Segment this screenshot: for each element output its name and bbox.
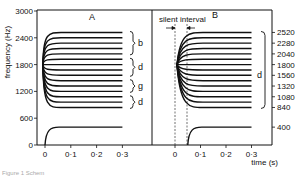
panel-b-formants <box>177 32 252 145</box>
x-tick-label: 0·1 <box>65 150 77 159</box>
bracket-label: b <box>138 38 143 48</box>
y-tick-label: 600 <box>20 114 34 123</box>
f2-formant-line <box>177 49 252 65</box>
f2-formant-line <box>177 65 252 92</box>
bracket <box>130 80 135 93</box>
f1-formant-line <box>188 127 252 145</box>
right-tick-label: 1560 <box>277 71 295 80</box>
x-tick-label: 0 <box>173 150 178 159</box>
right-tick-label: 1800 <box>277 61 295 70</box>
f2-formant-line <box>177 38 252 65</box>
right-tick-label: 2280 <box>277 39 295 48</box>
right-tick-label: 400 <box>277 123 291 132</box>
f2-formant-line <box>43 65 122 70</box>
x-tick-label: 0·1 <box>195 150 207 159</box>
panel-a-label: A <box>89 12 95 22</box>
y-tick-label: 1200 <box>15 87 33 96</box>
f2-formant-line <box>177 65 252 81</box>
panel-b-label: B <box>212 10 218 20</box>
y-tick-label: 0 <box>29 141 34 150</box>
right-tick-label: 1320 <box>277 82 295 91</box>
x-tick-label: 0·2 <box>220 150 232 159</box>
brackets-panel-b: d <box>257 31 265 108</box>
y-axis-title: frequency (Hz) <box>3 25 12 78</box>
f2-formant-line <box>43 38 122 65</box>
silent-interval-label: silent interval <box>159 15 206 24</box>
bracket-label: d <box>138 62 143 72</box>
y-tick-label: 1800 <box>15 61 33 70</box>
f2-formant-line <box>43 65 122 81</box>
f2-formant-line <box>43 65 122 92</box>
silent-interval-arrows <box>166 27 195 30</box>
f2-formant-line <box>177 59 252 64</box>
bracket-label: d <box>138 97 143 107</box>
formant-transition-figure: 06001200180024003000 frequency (Hz) A B … <box>0 0 297 180</box>
x-axis-title: time (s) <box>251 158 278 167</box>
bracket-label: g <box>138 81 143 91</box>
right-tick-label: 840 <box>277 103 291 112</box>
bracket-label: d <box>257 70 262 80</box>
bracket <box>130 96 135 109</box>
brackets-panel-a: bdgd <box>130 31 143 108</box>
y-axis: 06001200180024003000 <box>15 7 37 150</box>
right-tick-label: 1080 <box>277 93 295 102</box>
x-tick-label: 0·2 <box>91 150 103 159</box>
right-tick-label: 2040 <box>277 50 295 59</box>
right-axis-labels: 2520228020401800156013201080840400 <box>272 28 295 132</box>
f2-formant-line <box>43 59 122 64</box>
x-tick-label: 0·3 <box>117 150 129 159</box>
y-tick-label: 3000 <box>15 7 33 16</box>
bracket <box>130 58 135 76</box>
f2-formant-line <box>43 49 122 65</box>
x-axis-a: 00·10·20·3 <box>43 145 129 159</box>
y-tick-label: 2400 <box>15 34 33 43</box>
x-tick-label: 0 <box>43 150 48 159</box>
figure-caption: Figure 1 Schem <box>2 170 44 176</box>
plot-frame <box>37 10 272 145</box>
f2-formant-line <box>177 65 252 70</box>
x-axis-b: 00·10·20·3 <box>173 145 258 159</box>
panel-a-formants <box>43 32 122 145</box>
bracket <box>130 31 135 54</box>
f1-formant-line <box>45 127 122 145</box>
right-tick-label: 2520 <box>277 28 295 37</box>
